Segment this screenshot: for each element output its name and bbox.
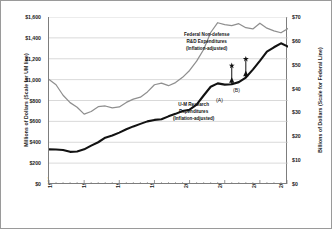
- y-tick-right-20: $20: [292, 133, 318, 139]
- um-label-line-2: Expenditures: [173, 108, 214, 115]
- y-tick-left-800: $800: [15, 98, 41, 104]
- y-tick-right-70: $70: [292, 14, 318, 20]
- plot-area: [48, 17, 287, 184]
- y-tick-left-0: $0: [15, 181, 41, 187]
- y-tick-left-1400: $1,400: [15, 35, 41, 41]
- um-label-line-3: (Inflation-adjusted): [173, 115, 214, 122]
- chart-figure: Millions of Dollars (Scale for UM line) …: [0, 0, 332, 229]
- federal-series-label: Federal Non-defense R&D Expenditures (In…: [184, 31, 229, 52]
- um-label-line-1: U-M Research: [173, 101, 214, 108]
- y-tick-right-60: $60: [292, 38, 318, 44]
- chart-svg: [49, 17, 288, 184]
- y-tick-left-1600: $1,600: [15, 14, 41, 20]
- federal-label-line-3: (Inflation-adjusted): [184, 45, 229, 52]
- callout-a-label: (A): [216, 97, 223, 103]
- gridlines: [49, 17, 288, 163]
- y-tick-left-1200: $1,200: [15, 56, 41, 62]
- y-tick-right-0: $0: [292, 181, 318, 187]
- y-tick-left-1000: $1,000: [15, 77, 41, 83]
- um-series-label: U-M Research Expenditures (Inflation-adj…: [173, 101, 214, 122]
- federal-label-line-1: Federal Non-defense: [184, 31, 229, 38]
- y-axis-title-right: Billions of Dollars (Scale for Federal L…: [317, 30, 323, 170]
- y-tick-left-200: $200: [15, 160, 41, 166]
- y-tick-left-400: $400: [15, 139, 41, 145]
- x-axis-minor-ticks: [49, 180, 288, 184]
- y-tick-right-50: $50: [292, 62, 318, 68]
- callout-b-label: (B): [233, 87, 240, 93]
- y-tick-right-30: $30: [292, 109, 318, 115]
- callout-markers: [229, 56, 249, 84]
- y-tick-right-10: $10: [292, 157, 318, 163]
- y-tick-left-600: $600: [15, 118, 41, 124]
- series-line-um: [49, 43, 288, 152]
- y-tick-right-40: $40: [292, 86, 318, 92]
- federal-label-line-2: R&D Expenditures: [184, 38, 229, 45]
